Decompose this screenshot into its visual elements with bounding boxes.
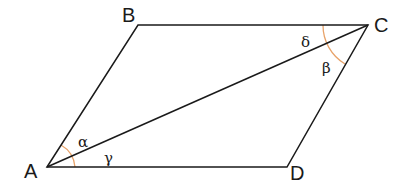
diagonal-ac xyxy=(47,25,368,167)
angle-label-alpha: α xyxy=(78,133,88,151)
angle-label-gamma: γ xyxy=(104,149,113,167)
vertex-label-c: C xyxy=(374,14,388,36)
vertex-label-b: B xyxy=(122,4,135,26)
vertex-label-d: D xyxy=(290,162,304,184)
vertex-label-a: A xyxy=(24,160,38,182)
angle-label-delta: δ xyxy=(301,33,310,51)
parallelogram-diagram: A B C D α γ δ β xyxy=(0,0,411,189)
angle-label-beta: β xyxy=(322,59,331,77)
